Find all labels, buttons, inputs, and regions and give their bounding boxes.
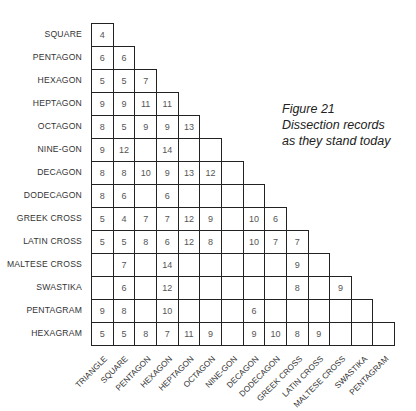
table-cell [91, 276, 114, 300]
figure-caption: Figure 21 Dissection records as they sta… [282, 101, 390, 149]
table-cell [351, 299, 374, 323]
table-cell: 4 [91, 23, 114, 47]
caption-title-line1: Dissection records [282, 117, 390, 133]
table-cell [221, 230, 244, 254]
table-cell: 10 [243, 230, 266, 254]
table-cell: 8 [91, 184, 114, 208]
table-cell [199, 253, 222, 277]
table-cell [308, 299, 331, 323]
row-label: HEXAGRAM [31, 322, 82, 345]
table-cell: 14 [156, 253, 179, 277]
table-cell [178, 253, 201, 277]
caption-figure-number: Figure 21 [282, 101, 390, 117]
table-cell [134, 299, 157, 323]
table-cell [134, 253, 157, 277]
table-cell: 13 [178, 161, 201, 185]
table-cell [199, 138, 222, 162]
table-cell [221, 276, 244, 300]
table-cell [221, 161, 244, 185]
row-label: HEPTAGON [33, 92, 82, 115]
row-label: PENTAGON [33, 46, 82, 69]
table-cell: 9 [243, 322, 266, 346]
table-cell [329, 299, 352, 323]
table-cell [221, 322, 244, 346]
row-label: MALTESE CROSS [7, 253, 82, 276]
table-cell: 5 [113, 115, 136, 139]
table-cell: 9 [199, 207, 222, 231]
table-cell: 5 [113, 69, 136, 93]
table-cell [351, 322, 374, 346]
table-cell: 5 [91, 322, 114, 346]
table-cell: 9 [91, 138, 114, 162]
table-cell: 14 [156, 138, 179, 162]
table-cell: 9 [91, 299, 114, 323]
table-cell: 9 [134, 115, 157, 139]
table-cell [243, 253, 266, 277]
table-cell: 8 [113, 299, 136, 323]
table-cell [91, 253, 114, 277]
table-cell: 7 [113, 253, 136, 277]
table-cell [264, 276, 287, 300]
table-cell: 7 [134, 207, 157, 231]
table-cell: 12 [156, 276, 179, 300]
table-cell: 10 [243, 207, 266, 231]
table-cell: 10 [156, 299, 179, 323]
row-label: OCTAGON [38, 115, 82, 138]
table-cell: 12 [178, 230, 201, 254]
table-cell: 9 [308, 322, 331, 346]
table-cell [329, 322, 352, 346]
table-cell: 10 [134, 161, 157, 185]
table-cell: 9 [156, 161, 179, 185]
table-cell: 8 [199, 230, 222, 254]
table-cell: 7 [156, 207, 179, 231]
table-cell [221, 299, 244, 323]
row-label: SQUARE [45, 23, 83, 46]
table-cell [308, 253, 331, 277]
table-cell [243, 276, 266, 300]
table-cell [199, 299, 222, 323]
table-cell: 6 [91, 46, 114, 70]
table-cell: 7 [264, 230, 287, 254]
table-cell: 9 [113, 92, 136, 116]
row-label: GREEK CROSS [17, 207, 82, 230]
table-cell: 7 [156, 322, 179, 346]
dissection-records-table: SQUARE4PENTAGON66HEXAGON557HEPTAGON99111… [0, 0, 416, 411]
row-label: HEXAGON [38, 69, 82, 92]
table-cell: 9 [156, 115, 179, 139]
table-cell: 8 [134, 230, 157, 254]
table-cell [178, 276, 201, 300]
table-cell: 5 [91, 207, 114, 231]
table-cell: 6 [113, 276, 136, 300]
table-cell: 6 [156, 230, 179, 254]
table-cell [286, 299, 309, 323]
table-cell: 9 [199, 322, 222, 346]
table-cell: 5 [113, 230, 136, 254]
row-label: LATIN CROSS [23, 230, 82, 253]
table-cell: 11 [134, 92, 157, 116]
table-cell: 4 [113, 207, 136, 231]
table-cell [372, 322, 395, 346]
table-cell: 6 [156, 184, 179, 208]
table-cell: 5 [113, 322, 136, 346]
table-cell [308, 276, 331, 300]
table-cell [264, 299, 287, 323]
table-cell [134, 184, 157, 208]
table-cell: 8 [113, 161, 136, 185]
table-cell: 8 [91, 115, 114, 139]
row-label: DODECAGON [24, 184, 82, 207]
row-label: PENTAGRAM [26, 299, 82, 322]
table-cell: 7 [286, 230, 309, 254]
table-cell [134, 138, 157, 162]
table-cell: 12 [178, 207, 201, 231]
table-cell: 8 [134, 322, 157, 346]
table-cell: 9 [91, 92, 114, 116]
row-label: NINE-GON [37, 138, 82, 161]
table-cell: 10 [264, 322, 287, 346]
table-cell: 6 [113, 184, 136, 208]
table-cell: 6 [113, 46, 136, 70]
table-cell: 13 [178, 115, 201, 139]
table-cell: 11 [156, 92, 179, 116]
row-label: SWASTIKA [36, 276, 82, 299]
table-cell: 6 [264, 207, 287, 231]
table-cell [178, 138, 201, 162]
